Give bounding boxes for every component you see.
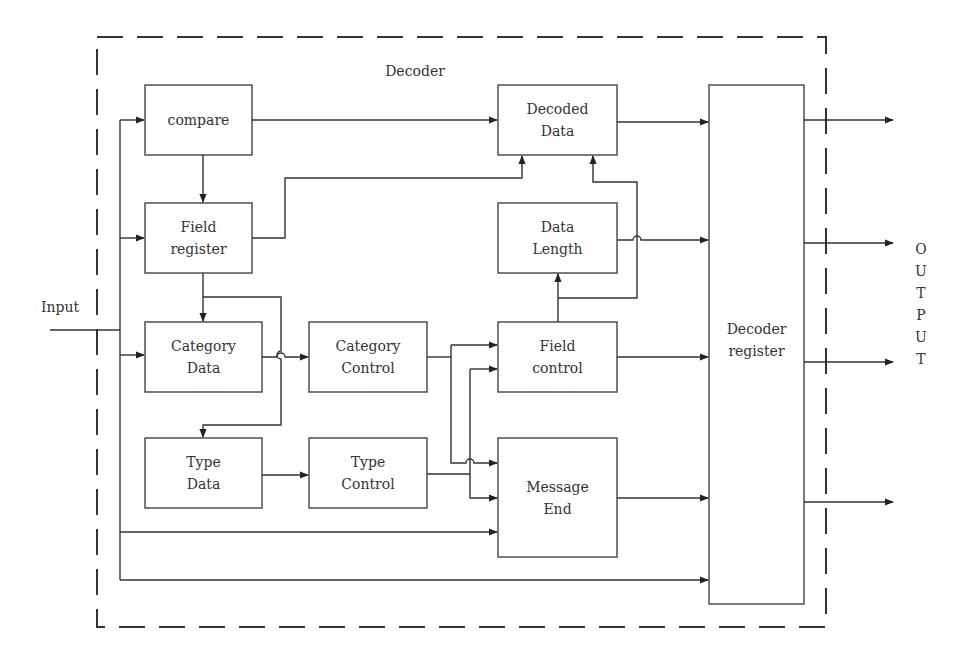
- output-letter: O: [914, 238, 928, 260]
- category-control-label: Category Control: [309, 322, 427, 392]
- field-control-label: Field control: [498, 322, 617, 392]
- decoded-data-label: Decoded Data: [498, 85, 617, 155]
- input-label: Input: [30, 296, 90, 318]
- output-letter: T: [914, 282, 928, 304]
- compare-label: compare: [145, 85, 252, 155]
- output-letter: T: [914, 348, 928, 370]
- data-length-label: Data Length: [498, 203, 617, 273]
- output-label: O U T P U T: [914, 238, 928, 370]
- type-control-label: Type Control: [309, 438, 427, 508]
- output-letter: U: [914, 326, 928, 348]
- output-letter: P: [914, 304, 928, 326]
- decoder-register-label: Decoder register: [709, 310, 804, 370]
- output-letter: U: [914, 260, 928, 282]
- field-register-label: Field register: [145, 203, 252, 273]
- type-data-label: Type Data: [145, 438, 262, 508]
- decoder-container-label: Decoder: [380, 60, 450, 82]
- category-data-label: Category Data: [145, 322, 262, 392]
- message-end-label: Message End: [498, 438, 617, 557]
